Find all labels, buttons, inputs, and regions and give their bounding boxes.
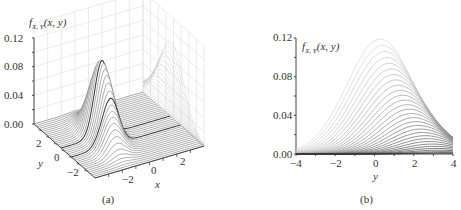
- z-tick-0.08: 0.08: [4, 61, 23, 72]
- y-tick-2: 2: [36, 138, 42, 149]
- y-axis-title: fX, Y(x, y): [302, 40, 339, 55]
- caption-a: (a): [102, 193, 114, 205]
- caption-b: (b): [360, 193, 373, 205]
- x-tick-minus2: −2: [330, 158, 342, 169]
- y-tick-0.08: 0.08: [273, 71, 292, 82]
- x-tick-4: 4: [451, 158, 457, 169]
- x-tick-minus4: −4: [290, 158, 302, 169]
- x-tick-0: 0: [151, 165, 157, 176]
- x-axis-title: y: [373, 170, 378, 182]
- x-tick-2: 2: [412, 158, 418, 169]
- z-axis-title: fX, Y(x, y): [29, 16, 66, 31]
- z-tick-0.04: 0.04: [4, 90, 23, 101]
- y-tick-minus2: −2: [67, 167, 79, 178]
- y-axis-title: y: [38, 157, 43, 169]
- x-tick-minus2: −2: [122, 174, 134, 185]
- y-tick-0: 0: [54, 152, 60, 163]
- x-tick-0: 0: [373, 158, 379, 169]
- y-tick-0.04: 0.04: [273, 110, 292, 121]
- panel-a-3d-surface: fX, Y(x, y) 0.12 0.08 0.04 0.00 2 0 −2 y…: [0, 0, 232, 210]
- x-tick-2: 2: [180, 156, 186, 167]
- z-tick-0.12: 0.12: [4, 33, 23, 44]
- z-tick-0.00: 0.00: [4, 119, 23, 130]
- x-axis-title: x: [155, 178, 160, 190]
- y-tick-0.12: 0.12: [273, 32, 292, 43]
- line-plot-canvas: [232, 0, 461, 210]
- surface-plot-canvas: [0, 0, 232, 210]
- panel-b-line-family: fX, Y(x, y) 0.12 0.08 0.04 0.00 −4 −2 0 …: [232, 0, 461, 210]
